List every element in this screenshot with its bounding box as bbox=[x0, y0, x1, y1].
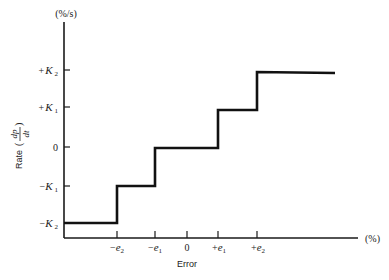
svg-text:dp: dp bbox=[9, 129, 19, 139]
y-axis-unit: (%/s) bbox=[55, 8, 77, 20]
svg-text:dt: dt bbox=[21, 130, 31, 138]
svg-text:): ) bbox=[13, 123, 25, 126]
x-label-minus-e2: −e2 bbox=[110, 241, 125, 255]
y-label-zero: 0 bbox=[53, 142, 58, 153]
y-label-minus-k2: −K2 bbox=[40, 217, 59, 231]
y-axis-title: Rate ( dp dt ) bbox=[9, 123, 31, 169]
y-label-minus-k1: −K1 bbox=[40, 180, 59, 194]
x-label-plus-e2: +e2 bbox=[251, 241, 266, 255]
x-label-minus-e1: −e1 bbox=[148, 241, 163, 255]
svg-text:(: ( bbox=[13, 142, 25, 146]
x-axis-unit: (%) bbox=[365, 233, 380, 245]
staircase-curve bbox=[64, 72, 335, 223]
x-axis-title: Error bbox=[177, 259, 197, 269]
x-label-plus-e1: +e1 bbox=[212, 241, 227, 255]
x-label-zero: 0 bbox=[185, 242, 190, 253]
svg-text:Rate: Rate bbox=[14, 150, 24, 169]
y-label-plus-k2: +K2 bbox=[39, 64, 59, 78]
y-label-plus-k1: +K1 bbox=[39, 101, 59, 115]
step-rate-diagram: (%/s) (%) +K2 +K1 0 −K1 −K2 Rate ( dp dt… bbox=[0, 0, 389, 280]
